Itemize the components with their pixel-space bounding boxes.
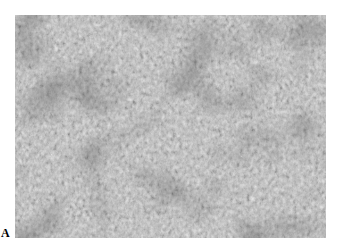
panel-label: A [1,227,10,239]
figure: A [0,0,338,249]
micrograph-image [15,15,326,238]
